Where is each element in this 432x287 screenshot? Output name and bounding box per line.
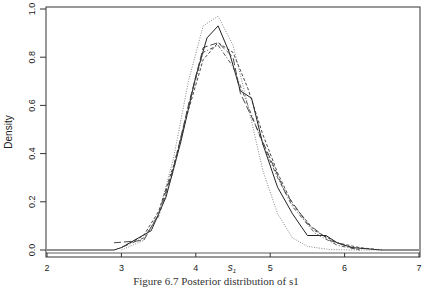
x-tick-label: 6	[342, 263, 347, 273]
density-chart: 0.00.20.40.60.81.0 234567 Density s1	[0, 0, 432, 287]
figure-caption: Figure 6.7 Posterior distribution of s1	[0, 275, 432, 287]
x-tick-label: 7	[416, 263, 421, 273]
y-axis-label: Density	[3, 115, 14, 148]
x-tick-label: 2	[44, 263, 49, 273]
x-tick-label: 4	[193, 263, 198, 273]
series-line-solid	[47, 26, 419, 250]
y-tick-label: 0.0	[27, 244, 37, 257]
y-tick-label: 1.0	[27, 3, 37, 16]
series-line-longdash	[114, 43, 360, 250]
x-tick-label: 3	[119, 263, 124, 273]
y-tick-label: 0.2	[27, 196, 37, 209]
y-tick-label: 0.6	[27, 99, 37, 112]
x-axis-label: s1	[228, 262, 236, 274]
series-line-dashed	[121, 43, 381, 250]
series-layer	[47, 16, 419, 250]
y-tick-label: 0.4	[27, 147, 37, 160]
y-tick-label: 0.8	[27, 51, 37, 64]
series-line-dotted	[121, 16, 381, 250]
x-tick-label: 5	[268, 263, 273, 273]
series-line-dotdash	[121, 45, 359, 250]
y-axis: 0.00.20.40.60.81.0	[27, 3, 46, 257]
